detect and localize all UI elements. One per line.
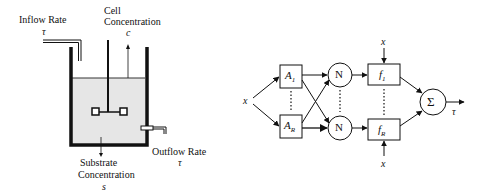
edge-x-to-a1 xyxy=(253,77,279,98)
box-fr-label: fR xyxy=(378,124,385,140)
box-ar-sub: R xyxy=(291,126,295,134)
fr-input-x-label: x xyxy=(381,158,385,169)
box-a1-sub: 1 xyxy=(292,76,296,84)
box-fr-sub: R xyxy=(381,130,385,138)
box-a1-main: A xyxy=(285,69,292,81)
sum-symbol: Σ xyxy=(427,95,435,109)
network-drawing xyxy=(0,0,484,196)
edge-f1-to-sum xyxy=(400,77,422,93)
node-n1-label: N xyxy=(335,69,343,80)
edge-fr-to-sum xyxy=(400,111,422,126)
edge-x-to-ar xyxy=(253,104,279,126)
box-f1-sub: 1 xyxy=(382,75,386,83)
box-a1-label: A1 xyxy=(285,70,295,86)
box-ar-label: AR xyxy=(284,120,295,136)
f1-input-x-label: x xyxy=(381,36,385,47)
box-ar-main: A xyxy=(284,119,291,131)
box-f1-label: f1 xyxy=(379,69,386,85)
output-tau-label: τ xyxy=(452,106,456,117)
node-nr-label: N xyxy=(335,122,343,133)
input-x-label: x xyxy=(243,95,247,106)
